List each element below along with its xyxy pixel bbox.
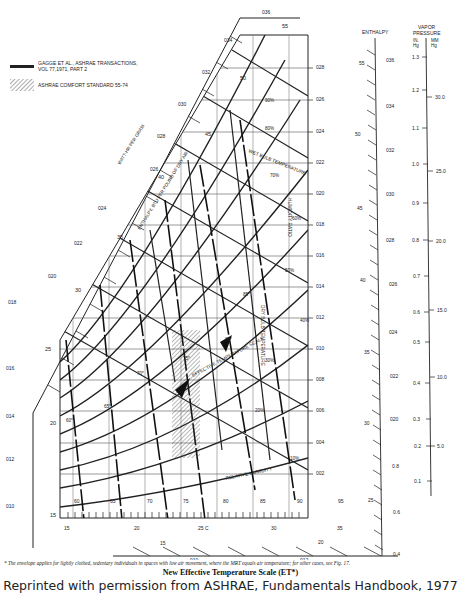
svg-text:15: 15 (64, 525, 70, 531)
svg-text:010: 010 (6, 503, 15, 509)
svg-text:016: 016 (6, 365, 15, 371)
svg-text:30: 30 (271, 525, 277, 531)
vapor-pressure-title-2: PRESSURE (413, 30, 441, 36)
svg-text:50%: 50% (285, 268, 294, 273)
svg-text:024: 024 (98, 205, 107, 211)
svg-text:006: 006 (316, 407, 325, 413)
svg-text:80%: 80% (265, 126, 274, 131)
svg-text:30%: 30% (265, 358, 274, 363)
svg-text:20: 20 (134, 525, 140, 531)
svg-text:70: 70 (147, 498, 153, 504)
svg-text:0.2: 0.2 (414, 443, 421, 449)
svg-text:30: 30 (75, 287, 81, 293)
svg-text:022: 022 (390, 373, 399, 379)
svg-text:1.2: 1.2 (412, 87, 419, 93)
svg-text:5.0: 5.0 (437, 443, 444, 449)
svg-text:0.6: 0.6 (413, 309, 420, 315)
legend-solid-bar-icon (10, 65, 34, 68)
svg-text:85: 85 (260, 498, 266, 504)
svg-text:036: 036 (386, 57, 395, 63)
svg-text:012: 012 (6, 456, 15, 462)
svg-text:018: 018 (316, 221, 325, 227)
svg-text:020: 020 (316, 190, 325, 196)
svg-text:65*: 65* (104, 404, 111, 409)
vp-mm-hg-2: Hg (431, 43, 437, 48)
x-axis-f-labels: 60 65 70 75 80 85 90 95 (74, 498, 344, 504)
left-enthalpy-btu-labels: 15 20 25 30 35 40 45 50 55 (45, 23, 288, 518)
svg-text:024: 024 (316, 128, 325, 134)
chart-title: New Effective Temperature Scale (ET*) (0, 568, 461, 577)
svg-text:020: 020 (390, 416, 399, 422)
legend-hatched-box-icon (10, 79, 34, 91)
svg-text:022: 022 (316, 159, 325, 165)
svg-text:024: 024 (389, 329, 398, 335)
svg-text:40: 40 (360, 277, 366, 283)
svg-text:1.1: 1.1 (412, 125, 419, 131)
svg-text:55: 55 (359, 60, 365, 66)
svg-text:026: 026 (389, 281, 398, 287)
svg-text:10%: 10% (290, 456, 299, 461)
vapor-pressure-mm-labels: 30.0 25.0 20.0 15.0 10.0 5.0 (435, 94, 447, 449)
svg-text:85*: 85* (243, 292, 250, 297)
relative-humidity-label: RELATIVE HUMIDITY (225, 466, 273, 481)
svg-text:30.0: 30.0 (435, 94, 445, 100)
svg-text:0.6: 0.6 (393, 509, 400, 515)
svg-text:032: 032 (202, 69, 211, 75)
svg-text:20: 20 (50, 420, 56, 426)
vapor-pressure-in-labels: 1.3 1.2 1.1 1.0 0.9 0.8 0.7 0.6 0.5 0.4 … (412, 54, 421, 484)
svg-text:034: 034 (224, 37, 233, 43)
svg-text:004: 004 (316, 439, 325, 445)
svg-text:80*: 80* (225, 337, 232, 342)
legend-item-1-line2: VOL 77,1971, PART 2 (38, 66, 87, 72)
svg-text:028: 028 (157, 133, 166, 139)
svg-text:90%: 90% (265, 98, 274, 103)
svg-text:0.1: 0.1 (414, 478, 421, 484)
svg-text:25: 25 (368, 497, 374, 503)
right-enthalpy-labels: 55036 034 50032 030 45028 40026 024 3502… (355, 57, 400, 557)
footnote: * The envelope applies for lightly cloth… (4, 560, 459, 566)
svg-text:25.0: 25.0 (436, 168, 446, 174)
svg-text:40: 40 (158, 174, 164, 180)
svg-text:90: 90 (297, 498, 303, 504)
svg-text:15.0: 15.0 (437, 307, 447, 313)
svg-text:15: 15 (50, 512, 56, 518)
svg-text:20.0: 20.0 (436, 238, 446, 244)
svg-text:0.4: 0.4 (393, 551, 400, 557)
svg-text:20%: 20% (255, 408, 264, 413)
enthalpy-title: ENTHALPY (362, 29, 389, 35)
svg-text:75*: 75* (183, 356, 190, 361)
svg-text:45: 45 (357, 205, 363, 211)
vp-in-hg-2: Hg (413, 43, 419, 48)
svg-text:75: 75 (183, 498, 189, 504)
svg-text:014: 014 (316, 283, 325, 289)
svg-text:030: 030 (178, 101, 187, 107)
svg-text:010: 010 (316, 345, 325, 351)
svg-text:032: 032 (386, 147, 395, 153)
watt-hr-label: WATT-HR PER GRAM (117, 124, 146, 166)
vapor-pressure-scale (422, 38, 435, 496)
svg-text:0.4: 0.4 (413, 380, 420, 386)
svg-text:026: 026 (150, 166, 159, 172)
right-enthalpy-scale (367, 38, 383, 556)
legend: GAGGE ET AL., ASHRAE TRANSACTIONS, VOL 7… (10, 60, 138, 91)
svg-text:0.7: 0.7 (413, 273, 420, 279)
svg-text:022: 022 (74, 240, 83, 246)
svg-text:030: 030 (386, 191, 395, 197)
svg-text:25: 25 (45, 346, 51, 352)
svg-text:25 C: 25 C (198, 525, 209, 531)
x-axis-c-labels: 15 20 25 C 30 35 (64, 525, 343, 531)
credit-line: Reprinted with permission from ASHRAE, F… (0, 578, 461, 593)
svg-text:0.5: 0.5 (413, 339, 420, 345)
svg-text:65: 65 (110, 498, 116, 504)
svg-text:020: 020 (48, 273, 57, 279)
svg-text:016: 016 (316, 252, 325, 258)
svg-text:70%: 70% (270, 173, 279, 178)
humidity-ratio-labels: 002 004 006 008 010 012 014 016 018 020 … (316, 64, 325, 476)
bottom-enthalpy-ticks (133, 547, 381, 556)
svg-text:036: 036 (262, 9, 271, 15)
svg-text:60%: 60% (292, 216, 301, 221)
psychrometric-chart: GAGGE ET AL., ASHRAE TRANSACTIONS, VOL 7… (0, 0, 461, 560)
svg-text:50: 50 (355, 131, 361, 137)
svg-text:80: 80 (223, 498, 229, 504)
svg-text:0.8: 0.8 (392, 463, 399, 469)
